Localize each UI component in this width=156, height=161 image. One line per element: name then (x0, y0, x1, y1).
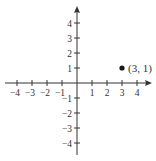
x-tick-label: 1 (90, 88, 95, 98)
y-tick-label: 3 (67, 34, 72, 44)
data-point-label: (3, 1) (128, 62, 152, 75)
chart-svg: −4−3−2−11234 4321−1−2−3−4 (3, 1) (0, 0, 156, 161)
y-tick-label: −4 (62, 139, 72, 149)
y-tick-label: −3 (62, 124, 72, 134)
coordinate-plane: −4−3−2−11234 4321−1−2−3−4 (3, 1) (0, 0, 156, 161)
x-tick-label: 2 (105, 88, 110, 98)
y-tick-label: −1 (62, 94, 72, 104)
data-points: (3, 1) (119, 62, 152, 75)
x-tick-label: −3 (25, 88, 35, 98)
x-tick-label: −4 (10, 88, 20, 98)
y-tick-label: 1 (67, 64, 72, 74)
x-tick-label: −2 (40, 88, 50, 98)
data-point-marker (119, 65, 124, 70)
axes (5, 6, 152, 155)
y-axis-arrow-icon (74, 6, 80, 13)
y-tick-label: 2 (67, 49, 72, 59)
y-tick-label: 4 (67, 19, 72, 29)
y-tick-label: −2 (62, 109, 72, 119)
x-tick-label: 4 (135, 88, 140, 98)
x-tick-label: 3 (120, 88, 125, 98)
x-axis-arrow-icon (145, 80, 152, 86)
